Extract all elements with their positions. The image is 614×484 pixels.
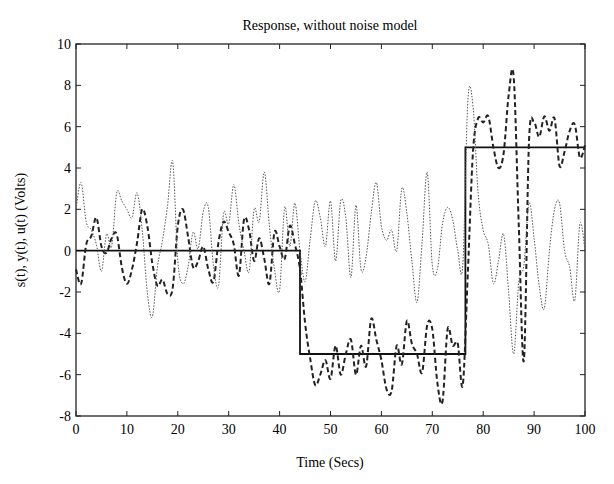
x-tick-label: 20 [171,422,185,437]
chart-title: Response, without noise model [243,18,418,33]
data-series [76,69,585,404]
y-tick-label: 2 [64,202,71,217]
y-tick-label: 8 [64,78,71,93]
y-axis-label: s(t), y(t), u(t) (Volts) [13,172,29,287]
x-axis-label: Time (Secs) [296,455,364,471]
line-chart: Response, without noise model 0102030405… [0,0,614,484]
x-tick-label: 0 [73,422,80,437]
x-tick-label: 40 [273,422,287,437]
x-tick-label: 90 [527,422,541,437]
y-tick-label: 4 [64,161,71,176]
y-tick-label: 6 [64,120,71,135]
y-tick-label: -6 [59,368,71,383]
x-tick-label: 30 [222,422,236,437]
y-tick-label: -8 [59,409,71,424]
y-axis-ticks: -8-6-4-20246810 [57,37,585,424]
y-tick-label: 10 [57,37,71,52]
x-tick-label: 70 [425,422,439,437]
y-tick-label: -2 [59,285,71,300]
series-ut-line [76,86,585,354]
x-tick-label: 10 [120,422,134,437]
y-tick-label: 0 [64,244,71,259]
series-st-line [76,147,585,354]
plot-frame [76,44,585,416]
x-tick-label: 100 [575,422,596,437]
plot-area: 0102030405060708090100 -8-6-4-20246810 [57,37,596,437]
x-tick-label: 60 [374,422,388,437]
x-tick-label: 50 [324,422,338,437]
x-tick-label: 80 [476,422,490,437]
y-tick-label: -4 [59,326,71,341]
